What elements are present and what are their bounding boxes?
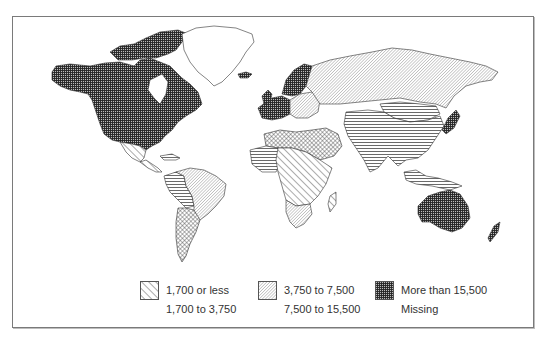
legend-label-1700-or-less: 1,700 or less	[166, 284, 229, 297]
legend-label-1700-to-3750: 1,700 to 3,750	[166, 303, 236, 316]
region-central-america	[140, 160, 162, 172]
legend: 1,700 or less 1,700 to 3,750 3,750 to 7,…	[140, 281, 440, 321]
legend-label-more-than-15500: More than 15,500	[401, 284, 487, 297]
region-caribbean	[160, 154, 180, 160]
region-arctic-islands	[110, 30, 188, 60]
legend-label-3750-to-7500: 3,750 to 7,500	[284, 284, 354, 297]
region-iceland	[238, 72, 252, 78]
region-madagascar	[328, 192, 336, 212]
legend-label-missing: Missing	[401, 303, 438, 316]
region-southeast-asia-islands	[404, 170, 462, 190]
legend-swatch-pair-1	[140, 281, 159, 300]
region-north-america	[52, 58, 202, 150]
legend-swatch-pair-2	[258, 281, 277, 300]
legend-label-7500-to-15500: 7,500 to 15,500	[284, 303, 360, 316]
region-new-zealand	[488, 222, 500, 242]
region-southern-cone	[176, 208, 200, 262]
region-russia	[306, 48, 498, 108]
legend-swatch-pair-3	[375, 281, 394, 300]
region-japan	[442, 110, 460, 134]
region-australia	[418, 190, 470, 232]
